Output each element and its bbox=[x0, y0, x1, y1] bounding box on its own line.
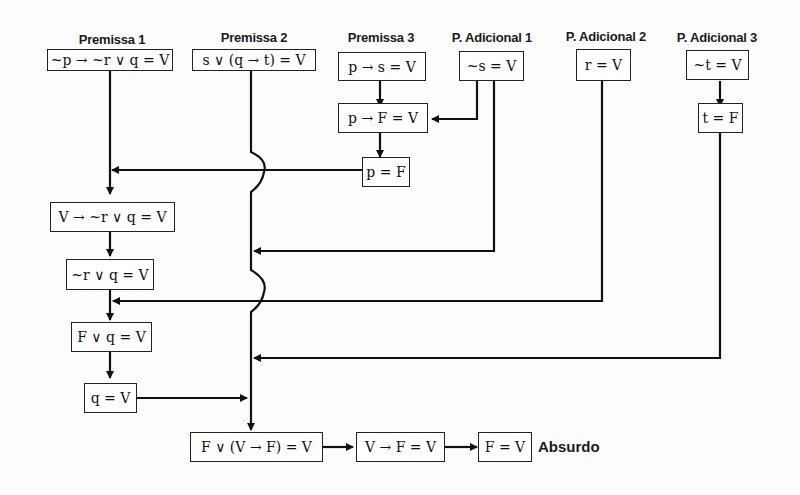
header-premissa-2: Premissa 2 bbox=[221, 30, 288, 45]
box-final-V-implies-F: V → F = V bbox=[356, 432, 445, 462]
box-p1-step-F-or-q: F ∨ q = V bbox=[71, 322, 152, 352]
pa3-to-p2-line bbox=[254, 133, 720, 358]
logic-flow-diagram: Premissa 1 Premissa 2 Premissa 3 P. Adic… bbox=[0, 0, 800, 495]
box-premissa-1: ~p → ~r ∨ q = V bbox=[47, 49, 173, 71]
box-premissa-3: p → s = V bbox=[338, 52, 426, 81]
box-p-adicional-2: r = V bbox=[576, 49, 631, 81]
box-p-adicional-1: ~s = V bbox=[459, 51, 524, 81]
box-pa3-step-t-false: t = F bbox=[698, 103, 743, 133]
header-p-adicional-3: P. Adicional 3 bbox=[677, 30, 757, 45]
header-premissa-1: Premissa 1 bbox=[79, 32, 146, 47]
header-p-adicional-2: P. Adicional 2 bbox=[566, 29, 646, 44]
box-p1-step-V-implies: V → ~r ∨ q = V bbox=[50, 202, 175, 232]
box-premissa-2: s ∨ (q → t) = V bbox=[192, 49, 316, 71]
header-premissa-3: Premissa 3 bbox=[348, 30, 415, 45]
box-final-F-equals-V: F = V bbox=[478, 432, 532, 462]
conclusion-absurdo: Absurdo bbox=[538, 438, 600, 455]
box-p3-step-p-implies-F: p → F = V bbox=[338, 103, 428, 133]
pa1-to-p3step1-line bbox=[432, 81, 477, 119]
box-final-F-or-V-implies-F: F ∨ (V → F) = V bbox=[190, 432, 323, 462]
box-p3-step-p-false: p = F bbox=[362, 157, 410, 187]
box-p1-step-q-true: q = V bbox=[84, 383, 137, 413]
header-p-adicional-1: P. Adicional 1 bbox=[452, 30, 532, 45]
box-p-adicional-3: ~t = V bbox=[686, 50, 749, 80]
p2-down-line bbox=[251, 67, 265, 430]
box-p1-step-not-r-or-q: ~r ∨ q = V bbox=[66, 259, 154, 290]
